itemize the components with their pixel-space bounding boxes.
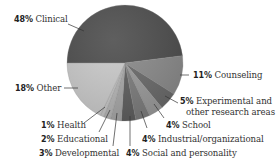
text-counseling: Counseling	[212, 70, 262, 80]
label-experimental: 5% Experimental and	[180, 96, 272, 107]
pct-clinical: 48%	[14, 15, 33, 24]
pct-counseling: 11%	[193, 71, 212, 80]
label-experimental-line2: other research areas	[186, 107, 275, 117]
label-developmental: 3% Developmental	[39, 148, 119, 159]
pct-social: 4%	[126, 149, 139, 158]
label-counseling: 11% Counseling	[193, 70, 262, 81]
label-industrial: 4% Industrial/organizational	[142, 134, 264, 145]
text-social: Social and personality	[139, 148, 236, 158]
pie-shading	[67, 5, 183, 121]
pct-industrial: 4%	[142, 135, 155, 144]
text-experimental: Experimental and	[193, 96, 272, 106]
text-health: Health	[54, 120, 85, 130]
pct-health: 1%	[41, 121, 54, 130]
pct-educational: 2%	[41, 135, 54, 144]
label-educational: 2% Educational	[41, 134, 108, 145]
label-other: 18% Other	[15, 83, 61, 94]
text-educational: Educational	[54, 134, 108, 144]
label-clinical: 48% Clinical	[14, 14, 68, 25]
label-social: 4% Social and personality	[126, 148, 237, 159]
pct-developmental: 3%	[39, 149, 52, 158]
label-health: 1% Health	[41, 120, 86, 131]
text-industrial: Industrial/organizational	[155, 134, 263, 144]
text-school: School	[179, 120, 210, 130]
text-other: Other	[34, 83, 61, 93]
text-experimental-2: other research areas	[186, 107, 275, 117]
text-clinical: Clinical	[33, 14, 68, 24]
pct-other: 18%	[15, 84, 34, 93]
pct-experimental: 5%	[180, 97, 193, 106]
pct-school: 4%	[166, 121, 179, 130]
text-developmental: Developmental	[52, 148, 119, 158]
label-school: 4% School	[166, 120, 211, 131]
